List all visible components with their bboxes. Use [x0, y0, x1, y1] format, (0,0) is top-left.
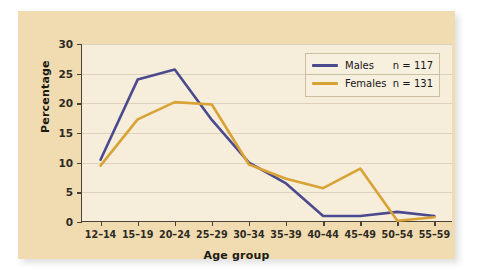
x-tick-label: 45–49 [345, 229, 377, 240]
y-tick [77, 222, 82, 223]
legend-label-females: Females [345, 78, 386, 89]
chart-legend: Males n = 117 Females n = 131 [305, 53, 440, 97]
x-tick-label: 35–39 [270, 229, 302, 240]
y-tick-label: 30 [58, 38, 73, 50]
x-tick-label: 15–19 [122, 229, 154, 240]
y-axis-title: Percentage [39, 60, 52, 133]
x-tick-label: 12–14 [85, 229, 117, 240]
y-tick-label: 20 [58, 97, 73, 109]
y-tick-label: 10 [58, 157, 73, 169]
legend-label-males: Males [345, 60, 374, 71]
legend-item-females[interactable]: Females n = 131 [312, 75, 433, 92]
chart-figure: Percentage Age group 051015202530 12–141… [0, 0, 487, 279]
legend-count-females: n = 131 [393, 78, 433, 89]
x-tick-label: 50–54 [382, 229, 414, 240]
x-tick-label: 25–29 [196, 229, 228, 240]
line-females [101, 102, 435, 221]
x-tick-label: 40–44 [307, 229, 339, 240]
x-axis-title: Age group [18, 249, 455, 262]
legend-swatch-males [312, 64, 338, 67]
legend-swatch-females [312, 82, 338, 85]
y-tick-label: 0 [66, 216, 73, 228]
x-tick-label: 30–34 [233, 229, 265, 240]
y-tick-label: 5 [66, 186, 73, 198]
y-tick-label: 25 [58, 68, 73, 80]
chart-panel: Percentage Age group 051015202530 12–141… [18, 11, 455, 259]
x-tick-label: 55–59 [419, 229, 451, 240]
legend-item-males[interactable]: Males n = 117 [312, 57, 433, 74]
y-tick-label: 15 [58, 127, 73, 139]
x-tick-label: 20–24 [159, 229, 191, 240]
legend-count-males: n = 117 [393, 60, 433, 71]
